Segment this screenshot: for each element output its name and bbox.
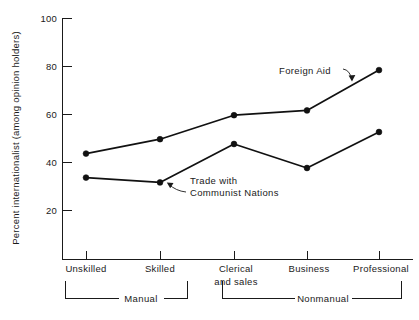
series-foreign-aid-line	[86, 70, 379, 154]
annotation-trade-communist: Trade with Communist Nations	[167, 175, 279, 198]
bracket-manual-left	[66, 281, 120, 299]
y-tick-label-40: 40	[46, 157, 57, 168]
annotation-label-trade-line1: Trade with	[190, 175, 238, 186]
data-point-trade-professional	[376, 129, 382, 135]
annotation-foreign-aid: Foreign Aid	[279, 65, 355, 82]
x-tick-label-clerical-line2: and sales	[214, 276, 257, 287]
line-chart: 100 80 60 40 20 Percent internationalist…	[0, 0, 419, 320]
group-label-manual: Manual	[124, 293, 157, 304]
data-point-foreign-aid-unskilled	[83, 151, 89, 157]
data-point-foreign-aid-professional	[376, 67, 382, 73]
bracket-nonmanual-right	[352, 281, 402, 299]
y-tick-label-20: 20	[46, 205, 57, 216]
y-tick-group	[63, 19, 72, 211]
annotation-arrowhead-foreign-aid	[349, 75, 356, 82]
data-point-foreign-aid-skilled	[157, 136, 163, 142]
axes-group	[63, 18, 413, 260]
annotation-label-foreign-aid: Foreign Aid	[279, 65, 331, 76]
data-point-foreign-aid-clerical	[231, 112, 237, 118]
x-tick-labels: Unskilled Skilled Clerical and sales Bus…	[65, 263, 409, 287]
y-tick-label-100: 100	[41, 13, 57, 24]
x-tick-group	[87, 251, 380, 260]
y-tick-label-80: 80	[46, 61, 57, 72]
annotation-label-trade-line2: Communist Nations	[190, 187, 279, 198]
data-point-trade-skilled	[157, 180, 163, 186]
y-axis-title: Percent internationalist (among opinion …	[10, 31, 21, 245]
data-point-trade-clerical	[231, 141, 237, 147]
y-tick-labels: 100 80 60 40 20	[41, 13, 57, 216]
group-label-nonmanual: Nonmanual	[297, 293, 349, 304]
group-bracket-manual: Manual	[66, 281, 188, 305]
chart-container: 100 80 60 40 20 Percent internationalist…	[0, 0, 419, 320]
x-tick-label-professional: Professional	[353, 263, 409, 274]
bracket-manual-right	[164, 281, 188, 299]
y-tick-label-60: 60	[46, 109, 57, 120]
x-tick-label-unskilled: Unskilled	[65, 263, 106, 274]
x-tick-label-business: Business	[289, 263, 330, 274]
data-point-trade-unskilled	[83, 175, 89, 181]
x-tick-label-clerical: Clerical	[219, 263, 253, 274]
data-point-foreign-aid-business	[304, 108, 310, 114]
data-point-trade-business	[304, 165, 310, 171]
x-tick-label-skilled: Skilled	[145, 263, 175, 274]
